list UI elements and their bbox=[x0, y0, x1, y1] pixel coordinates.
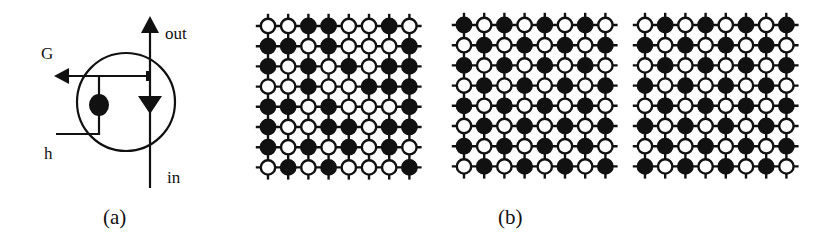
filled-node-icon bbox=[578, 58, 592, 72]
open-node-icon bbox=[321, 59, 335, 73]
filled-node-icon bbox=[658, 58, 672, 72]
open-node-icon bbox=[598, 18, 612, 32]
open-node-icon bbox=[759, 139, 773, 153]
open-node-icon bbox=[382, 160, 396, 174]
grid-random-configuration bbox=[256, 14, 422, 180]
open-node-icon bbox=[301, 120, 315, 134]
open-node-icon bbox=[497, 119, 511, 133]
filled-node-icon bbox=[538, 99, 552, 113]
filled-node-icon bbox=[382, 19, 396, 33]
open-node-icon bbox=[779, 159, 793, 173]
open-node-icon bbox=[261, 160, 275, 174]
out-arrow-icon bbox=[141, 16, 159, 33]
filled-node-icon bbox=[578, 139, 592, 153]
filled-node-icon bbox=[261, 140, 275, 154]
open-node-icon bbox=[759, 58, 773, 72]
open-node-icon bbox=[342, 160, 356, 174]
filled-node-icon bbox=[538, 139, 552, 153]
open-node-icon bbox=[342, 39, 356, 53]
open-node-icon bbox=[477, 18, 491, 32]
open-node-icon bbox=[281, 59, 295, 73]
filled-node-icon bbox=[739, 99, 753, 113]
filled-node-icon bbox=[558, 38, 572, 52]
open-node-icon bbox=[382, 100, 396, 114]
filled-node-icon bbox=[638, 78, 652, 92]
filled-node-icon bbox=[658, 139, 672, 153]
filled-node-icon bbox=[497, 58, 511, 72]
open-node-icon bbox=[261, 19, 275, 33]
filled-node-icon bbox=[301, 19, 315, 33]
lattice-grids bbox=[256, 13, 799, 180]
open-node-icon bbox=[719, 139, 733, 153]
filled-node-icon bbox=[759, 38, 773, 52]
neuron-symbol bbox=[56, 30, 175, 188]
open-node-icon bbox=[382, 39, 396, 53]
label-field: h bbox=[44, 144, 53, 164]
open-node-icon bbox=[739, 38, 753, 52]
open-node-icon bbox=[558, 99, 572, 113]
open-node-icon bbox=[362, 100, 376, 114]
open-node-icon bbox=[638, 139, 652, 153]
filled-node-icon bbox=[457, 139, 471, 153]
filled-node-icon bbox=[402, 120, 416, 134]
filled-node-icon bbox=[457, 99, 471, 113]
filled-node-icon bbox=[382, 140, 396, 154]
open-node-icon bbox=[759, 99, 773, 113]
open-node-icon bbox=[281, 19, 295, 33]
filled-node-icon bbox=[362, 79, 376, 93]
filled-node-icon bbox=[457, 18, 471, 32]
filled-node-icon bbox=[261, 39, 275, 53]
open-node-icon bbox=[558, 18, 572, 32]
filled-node-icon bbox=[281, 160, 295, 174]
open-node-icon bbox=[402, 140, 416, 154]
filled-node-icon bbox=[281, 39, 295, 53]
filled-node-icon bbox=[759, 119, 773, 133]
filled-node-icon bbox=[261, 59, 275, 73]
open-node-icon bbox=[678, 18, 692, 32]
filled-node-icon bbox=[321, 120, 335, 134]
filled-node-icon bbox=[558, 78, 572, 92]
open-node-icon bbox=[301, 100, 315, 114]
open-node-icon bbox=[517, 99, 531, 113]
filled-node-icon bbox=[477, 78, 491, 92]
filled-node-icon bbox=[678, 78, 692, 92]
filled-node-icon bbox=[402, 79, 416, 93]
filled-node-icon bbox=[89, 94, 109, 116]
open-node-icon bbox=[457, 78, 471, 92]
grid-inverse-checkerboard-configuration bbox=[633, 13, 799, 179]
open-node-icon bbox=[598, 58, 612, 72]
open-node-icon bbox=[261, 79, 275, 93]
filled-node-icon bbox=[719, 159, 733, 173]
open-node-icon bbox=[301, 39, 315, 53]
caption-b: (b) bbox=[498, 205, 523, 230]
filled-node-icon bbox=[497, 18, 511, 32]
diode-triangle-icon bbox=[138, 96, 162, 114]
filled-node-icon bbox=[698, 139, 712, 153]
open-node-icon bbox=[362, 39, 376, 53]
open-node-icon bbox=[538, 119, 552, 133]
filled-node-icon bbox=[739, 18, 753, 32]
filled-node-icon bbox=[321, 100, 335, 114]
open-node-icon bbox=[558, 139, 572, 153]
filled-node-icon bbox=[638, 159, 652, 173]
filled-node-icon bbox=[719, 38, 733, 52]
open-node-icon bbox=[321, 140, 335, 154]
filled-node-icon bbox=[638, 119, 652, 133]
open-node-icon bbox=[638, 58, 652, 72]
filled-node-icon bbox=[598, 119, 612, 133]
open-node-icon bbox=[658, 78, 672, 92]
filled-node-icon bbox=[517, 119, 531, 133]
open-node-icon bbox=[678, 58, 692, 72]
open-node-icon bbox=[538, 38, 552, 52]
open-node-icon bbox=[538, 78, 552, 92]
filled-node-icon bbox=[779, 99, 793, 113]
filled-node-icon bbox=[301, 59, 315, 73]
filled-node-icon bbox=[658, 99, 672, 113]
open-node-icon bbox=[598, 139, 612, 153]
filled-node-icon bbox=[457, 58, 471, 72]
filled-node-icon bbox=[517, 78, 531, 92]
label-gate: G bbox=[41, 44, 53, 64]
filled-node-icon bbox=[402, 100, 416, 114]
open-node-icon bbox=[578, 38, 592, 52]
open-node-icon bbox=[517, 58, 531, 72]
